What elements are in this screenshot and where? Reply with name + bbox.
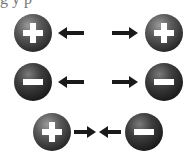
arrow-left-icon: [99, 126, 121, 138]
negative-charge-sphere: [14, 63, 52, 101]
positive-charge-sphere: [145, 14, 183, 52]
minus-icon: [145, 63, 183, 101]
plus-icon: [145, 14, 183, 52]
minus-icon: [125, 113, 163, 151]
negative-charge-sphere: [145, 63, 183, 101]
arrow-right-icon: [112, 27, 138, 39]
caption-partial: g y p: [0, 0, 32, 8]
negative-charge-sphere: [125, 113, 163, 151]
positive-charge-sphere: [33, 113, 71, 151]
arrow-left-icon: [58, 76, 84, 88]
positive-charge-sphere: [14, 14, 52, 52]
minus-icon: [14, 63, 52, 101]
arrow-right-icon: [112, 76, 138, 88]
arrow-right-icon: [74, 126, 96, 138]
plus-icon: [14, 14, 52, 52]
arrow-left-icon: [58, 27, 84, 39]
plus-icon: [33, 113, 71, 151]
